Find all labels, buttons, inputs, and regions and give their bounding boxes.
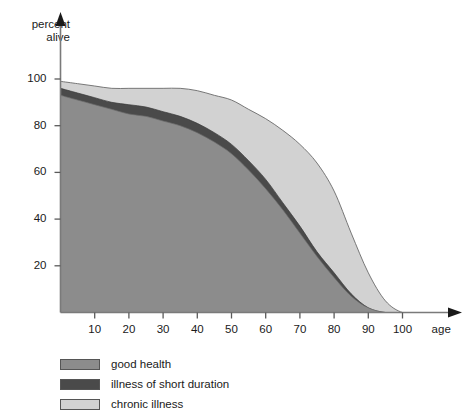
legend-item: good health bbox=[60, 359, 171, 370]
x-tick-label: 80 bbox=[321, 323, 347, 335]
y-tick-label: 60 bbox=[21, 165, 47, 177]
y-tick-label: 20 bbox=[21, 259, 47, 271]
x-tick-label: 100 bbox=[390, 323, 416, 335]
stacked-areas bbox=[61, 81, 420, 313]
legend-swatch bbox=[60, 379, 100, 390]
y-tick-label: 100 bbox=[21, 72, 47, 84]
x-axis-title: age bbox=[432, 323, 451, 335]
x-tick-label: 50 bbox=[219, 323, 245, 335]
legend-item: chronic illness bbox=[60, 399, 183, 410]
plot-area bbox=[0, 0, 475, 414]
x-tick-label: 70 bbox=[287, 323, 313, 335]
legend-label: illness of short duration bbox=[111, 379, 229, 390]
x-tick-label: 40 bbox=[184, 323, 210, 335]
legend-swatch bbox=[60, 399, 100, 410]
y-tick-label: 40 bbox=[21, 212, 47, 224]
x-tick-label: 10 bbox=[82, 323, 108, 335]
x-tick-label: 30 bbox=[150, 323, 176, 335]
x-tick-label: 90 bbox=[355, 323, 381, 335]
survival-area-chart: percent alive 10080604020 10203040506070… bbox=[0, 0, 475, 414]
y-tick-label: 80 bbox=[21, 119, 47, 131]
legend-label: chronic illness bbox=[111, 399, 183, 410]
x-tick-label: 60 bbox=[253, 323, 279, 335]
y-axis-ticks bbox=[55, 79, 61, 266]
legend-swatch bbox=[60, 359, 100, 370]
x-tick-label: 20 bbox=[116, 323, 142, 335]
x-axis-ticks bbox=[95, 313, 403, 319]
legend-item: illness of short duration bbox=[60, 379, 229, 390]
legend-label: good health bbox=[111, 359, 171, 370]
